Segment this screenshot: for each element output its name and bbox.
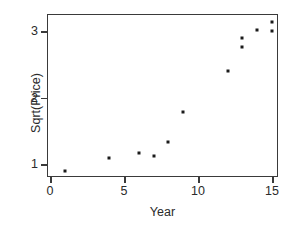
x-axis-tick: [272, 177, 274, 183]
x-axis-tick: [124, 177, 126, 183]
x-axis-tick: [198, 177, 200, 183]
x-axis-tick-label: 0: [47, 185, 54, 198]
y-axis-tick: [41, 164, 47, 166]
plot-frame: [47, 14, 278, 177]
x-axis-tick: [50, 177, 52, 183]
y-axis-label: Sqrt(Price): [29, 43, 43, 163]
y-axis-tick: [41, 31, 47, 33]
x-axis-label: Year: [47, 205, 278, 219]
y-axis-tick-label: 3: [31, 25, 38, 38]
x-axis-tick-label: 15: [265, 185, 279, 198]
scatter-plot-figure: 123051015 Sqrt(Price) Year: [0, 0, 294, 232]
x-axis-tick-label: 10: [191, 185, 205, 198]
x-axis-tick-label: 5: [121, 185, 128, 198]
